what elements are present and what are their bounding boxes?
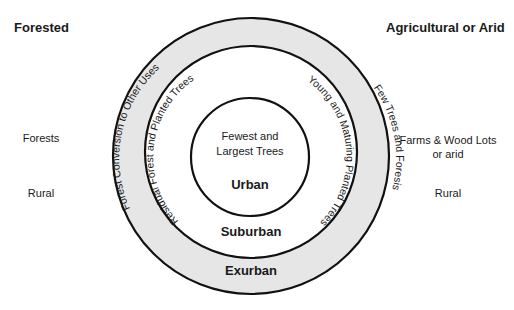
- concentric-zones-diagram: Forest Conversion to Other Uses Few Tree…: [0, 0, 514, 310]
- urban-desc-line2: Largest Trees: [216, 145, 284, 157]
- urban-zone-label: Urban: [231, 177, 269, 192]
- suburban-zone-label: Suburban: [221, 224, 282, 239]
- exurban-zone-label: Exurban: [225, 263, 277, 278]
- urban-core: [191, 98, 309, 216]
- urban-desc-line1: Fewest and: [222, 130, 279, 142]
